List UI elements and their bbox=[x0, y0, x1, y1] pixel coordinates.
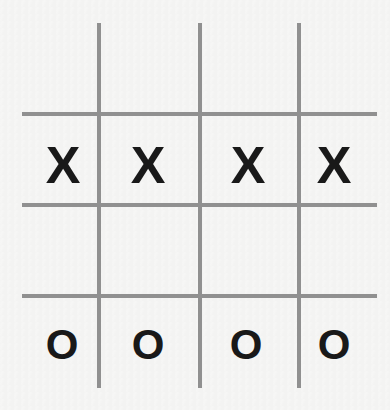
mark-x-4[interactable]: X bbox=[312, 139, 356, 191]
grid-horizontal-line-1 bbox=[22, 112, 377, 116]
mark-x-2[interactable]: X bbox=[126, 139, 170, 191]
mark-o-4[interactable]: O bbox=[314, 324, 354, 366]
tic-tac-toe-board: X X X X O O O O bbox=[0, 0, 390, 410]
mark-x-1[interactable]: X bbox=[41, 139, 85, 191]
mark-o-1[interactable]: O bbox=[42, 324, 82, 366]
mark-o-2[interactable]: O bbox=[128, 324, 168, 366]
mark-o-3[interactable]: O bbox=[226, 324, 266, 366]
mark-x-3[interactable]: X bbox=[226, 139, 270, 191]
grid-horizontal-line-2 bbox=[22, 203, 377, 207]
grid-horizontal-line-3 bbox=[22, 294, 377, 298]
